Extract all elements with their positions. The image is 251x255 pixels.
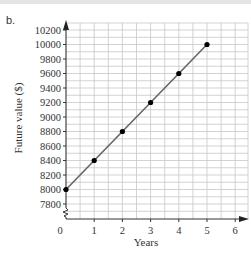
x-axis-ticks: 0123456 bbox=[57, 219, 237, 236]
grid-lines bbox=[66, 23, 248, 219]
data-point bbox=[63, 187, 68, 192]
y-tick-label: 9400 bbox=[40, 83, 61, 94]
x-tick-label: 2 bbox=[120, 225, 125, 236]
y-tick-label: 10000 bbox=[35, 39, 61, 50]
x-tick-label: 5 bbox=[204, 225, 209, 236]
data-point bbox=[148, 100, 153, 105]
y-tick-label: 8400 bbox=[40, 155, 61, 166]
data-point bbox=[92, 158, 97, 163]
y-tick-label: 7800 bbox=[40, 199, 61, 210]
data-point bbox=[120, 129, 125, 134]
y-tick-label: 8000 bbox=[40, 184, 61, 195]
y-tick-label: 9800 bbox=[40, 54, 61, 65]
x-axis-title: Years bbox=[134, 236, 159, 248]
x-tick-label: 0 bbox=[57, 225, 62, 236]
x-tick-label: 6 bbox=[233, 225, 238, 236]
y-tick-label: 10200 bbox=[35, 25, 61, 36]
y-tick-label: 8800 bbox=[40, 126, 61, 137]
y-tick-label: 9200 bbox=[40, 97, 61, 108]
x-tick-label: 3 bbox=[148, 225, 153, 236]
data-point bbox=[176, 71, 181, 76]
y-tick-label: 9000 bbox=[40, 112, 61, 123]
y-axis-title: Future value ($) bbox=[12, 82, 25, 153]
y-axis-ticks: 7800800082008400860088009000920094009600… bbox=[35, 25, 66, 210]
y-tick-label: 9600 bbox=[40, 68, 61, 79]
y-tick-label: 8200 bbox=[40, 170, 61, 181]
x-tick-label: 1 bbox=[92, 225, 97, 236]
data-point bbox=[204, 42, 209, 47]
line-chart: 7800800082008400860088009000920094009600… bbox=[0, 0, 251, 255]
x-tick-label: 4 bbox=[176, 225, 182, 236]
y-tick-label: 8600 bbox=[40, 141, 61, 152]
